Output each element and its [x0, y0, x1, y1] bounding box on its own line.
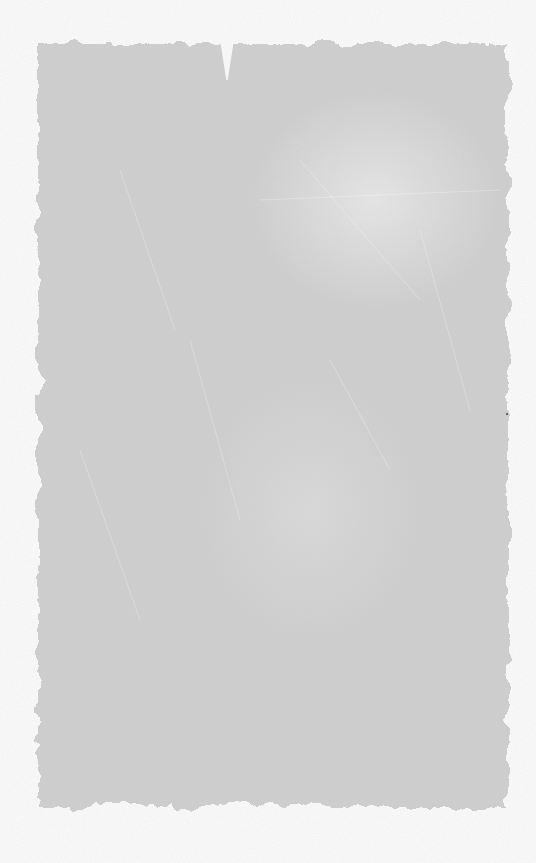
dark-speck — [506, 413, 508, 415]
texture-canvas — [0, 0, 536, 863]
grunge-paint-block — [38, 44, 508, 806]
